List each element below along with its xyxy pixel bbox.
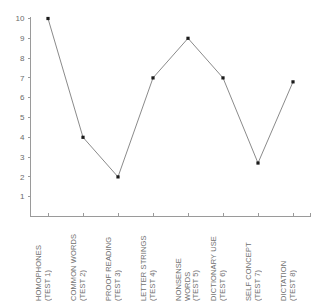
series-line (48, 19, 293, 177)
data-point-marker (116, 175, 119, 178)
y-axis-tick-label: 10 (16, 14, 25, 23)
data-point-marker (186, 37, 189, 40)
y-axis-tick-label: 7 (20, 74, 25, 83)
data-point-marker (46, 17, 49, 20)
data-point-marker (256, 161, 259, 164)
data-point-marker (291, 80, 294, 83)
y-axis-tick-label: 1 (20, 192, 25, 201)
line-chart: 12345678910 HOMOPHONES (TEST 1)COMMON WO… (0, 0, 332, 301)
y-axis-tick-label: 8 (20, 54, 25, 63)
chart-plot-area: 12345678910 (0, 0, 332, 301)
y-axis-tick-label: 2 (20, 173, 25, 182)
data-point-marker (221, 76, 224, 79)
y-axis-tick-label: 5 (20, 113, 25, 122)
y-axis-tick-label: 6 (20, 93, 25, 102)
data-point-marker (151, 76, 154, 79)
data-point-marker (81, 136, 84, 139)
y-axis-tick-label: 4 (20, 133, 25, 142)
y-axis-tick-label: 3 (20, 153, 25, 162)
y-axis-tick-label: 9 (20, 34, 25, 43)
